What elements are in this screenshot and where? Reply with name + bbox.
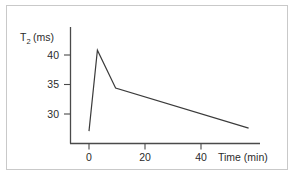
chart-figure: 40 35 30 0 20 40 T2(ms) Time (min) — [0, 0, 301, 182]
y-axis-title-unit: (ms) — [33, 31, 54, 43]
axes-group — [70, 27, 260, 144]
x-tick-label-20: 20 — [139, 151, 151, 163]
y-tick-label-30: 30 — [47, 108, 59, 120]
data-series-line — [89, 50, 249, 131]
svg-text:T2(ms): T2(ms) — [20, 31, 54, 46]
y-tick-marks-group — [64, 55, 71, 114]
x-tick-label-40: 40 — [195, 151, 207, 163]
x-tick-labels-group: 0 20 40 — [86, 151, 207, 163]
x-tick-label-0: 0 — [86, 151, 92, 163]
y-tick-label-40: 40 — [47, 49, 59, 61]
x-tick-marks-group — [89, 144, 201, 150]
y-axis-title: T2(ms) — [20, 31, 54, 46]
y-tick-label-35: 35 — [47, 78, 59, 90]
x-axis-title: Time (min) — [218, 151, 268, 163]
y-axis-title-subscript: 2 — [26, 37, 30, 46]
line-chart-canvas: 40 35 30 0 20 40 T2(ms) Time (min) — [0, 0, 301, 182]
y-tick-labels-group: 40 35 30 — [47, 49, 59, 120]
